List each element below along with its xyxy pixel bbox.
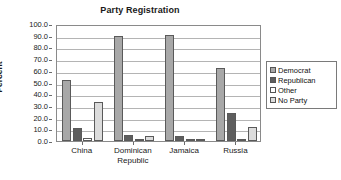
- bar-democrat-dominican-republic: [114, 36, 123, 141]
- y-axis-tick-mark: [49, 107, 52, 108]
- bar-noparty-china: [94, 102, 103, 141]
- y-axis-tick-mark: [49, 25, 52, 26]
- y-axis-tick-label: 100.0: [12, 21, 48, 29]
- y-axis-tick-mark: [49, 37, 52, 38]
- y-axis-title: Percent: [0, 42, 6, 112]
- y-axis-tick-label: 60.0: [12, 68, 48, 76]
- x-axis-tick-mark: [133, 142, 134, 145]
- legend-label: Other: [278, 86, 297, 95]
- legend-label: No Party: [278, 96, 307, 105]
- bar-republican-china: [73, 128, 82, 141]
- y-axis-tick-label: 10.0: [12, 126, 48, 134]
- x-axis-tick-mark: [235, 142, 236, 145]
- x-axis-tick-mark: [184, 142, 185, 145]
- y-axis-tick-mark: [49, 142, 52, 143]
- legend-swatch-icon: [270, 87, 276, 93]
- y-axis-tick-mark: [49, 119, 52, 120]
- bar-republican-russia: [227, 113, 236, 141]
- bar-republican-jamaica: [175, 136, 184, 141]
- plot-area: [56, 25, 261, 142]
- bar-other-russia: [237, 139, 246, 141]
- chart-legend: DemocratRepublicanOtherNo Party: [266, 61, 337, 109]
- y-axis-tick-mark: [49, 48, 52, 49]
- y-axis-tick-label: 50.0: [12, 80, 48, 88]
- bar-democrat-jamaica: [165, 35, 174, 141]
- x-axis-label-line: Republic: [98, 156, 168, 166]
- legend-item-no-party: No Party: [270, 95, 334, 105]
- bar-noparty-russia: [248, 127, 257, 141]
- legend-item-republican: Republican: [270, 75, 334, 85]
- y-axis-tick-label: 90.0: [12, 33, 48, 41]
- bar-other-china: [83, 138, 92, 141]
- x-axis-label-line: Russia: [200, 146, 270, 156]
- legend-swatch-icon: [270, 77, 276, 83]
- bar-noparty-jamaica: [196, 139, 205, 141]
- bar-group: [62, 26, 103, 141]
- legend-label: Democrat: [278, 66, 311, 75]
- y-axis-tick-label: 30.0: [12, 103, 48, 111]
- y-axis-tick-labels: 100.090.080.070.060.050.040.030.020.010.…: [16, 20, 52, 147]
- bar-other-jamaica: [186, 139, 195, 141]
- chart-title: Party Registration: [0, 5, 280, 15]
- chart-container: Party Registration Percent 100.090.080.0…: [0, 0, 341, 180]
- y-axis-tick-label: 20.0: [12, 115, 48, 123]
- bar-group: [165, 26, 206, 141]
- legend-swatch-icon: [270, 67, 276, 73]
- legend-item-democrat: Democrat: [270, 65, 334, 75]
- bar-group: [114, 26, 155, 141]
- bar-noparty-dominican-republic: [145, 136, 154, 141]
- bar-republican-dominican-republic: [124, 135, 133, 141]
- x-axis-label-russia: Russia: [200, 146, 270, 156]
- x-axis-tick-mark: [82, 142, 83, 145]
- y-axis-tick-label: 40.0: [12, 91, 48, 99]
- y-axis-tick-mark: [49, 72, 52, 73]
- y-axis-tick-label: 70.0: [12, 56, 48, 64]
- bar-group: [216, 26, 257, 141]
- bar-other-dominican-republic: [135, 139, 144, 141]
- legend-swatch-icon: [270, 97, 276, 103]
- legend-label: Republican: [278, 76, 316, 85]
- y-axis-tick-mark: [49, 84, 52, 85]
- y-axis-tick-label: 0.0: [12, 138, 48, 146]
- bar-democrat-russia: [216, 68, 225, 141]
- y-axis-tick-label: 80.0: [12, 44, 48, 52]
- y-axis-tick-mark: [49, 60, 52, 61]
- y-axis-tick-mark: [49, 130, 52, 131]
- legend-item-other: Other: [270, 85, 334, 95]
- y-axis-tick-mark: [49, 95, 52, 96]
- bar-democrat-china: [62, 80, 71, 141]
